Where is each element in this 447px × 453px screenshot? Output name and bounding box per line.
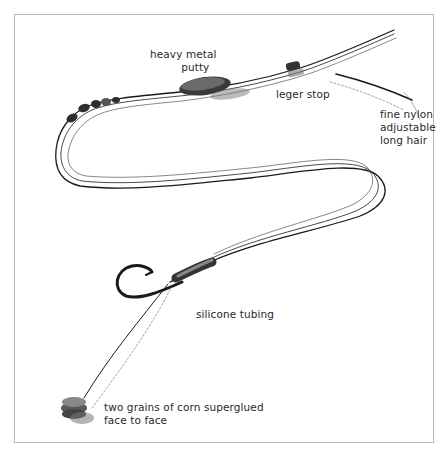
putty-weight (178, 73, 251, 101)
silicone-tubing (176, 260, 212, 278)
label-hair: fine nylon adjustable long hair (380, 108, 436, 147)
main-line (56, 30, 396, 282)
label-putty: heavy metal putty (150, 48, 217, 74)
corn-bait (61, 397, 94, 424)
label-tubing: silicone tubing (196, 308, 274, 321)
rig-illustration (0, 0, 447, 453)
label-bait: two grains of corn superglued face to fa… (104, 401, 264, 427)
swivel-beads (65, 97, 120, 124)
label-leger-stop: leger stop (276, 88, 330, 101)
